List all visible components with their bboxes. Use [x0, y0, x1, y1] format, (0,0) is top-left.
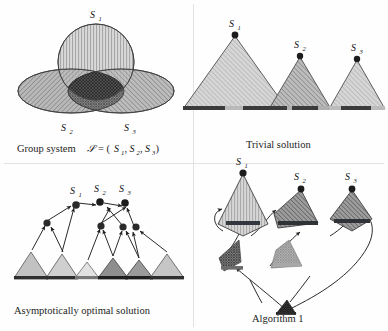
- figure-container: S 1 S 2 S 3 Group system 𝒮 = ( S 1 , S 2…: [0, 0, 388, 331]
- caption-equals: = (: [98, 143, 111, 155]
- asym-node-l3: [119, 223, 126, 230]
- label-S3-group: S 3: [124, 122, 137, 135]
- caption-S2: S: [130, 143, 135, 154]
- trivial-S2-node: [297, 53, 303, 59]
- asym-leaf-1: [14, 252, 48, 279]
- panel-group-system: S 1 S 2 S 3 Group system 𝒮 = ( S 1 , S 2…: [17, 9, 174, 156]
- asym-node-S3: [121, 199, 129, 207]
- alg-kite-S2: [274, 186, 318, 228]
- alg-S3-bar: [334, 219, 370, 223]
- label-S1-letter: S: [90, 9, 95, 20]
- label-S1-group: S 1: [90, 9, 102, 22]
- asym-label-S3: S 3: [119, 183, 132, 196]
- alg-S3-node: [349, 186, 356, 193]
- trivial-label-S2: S 2: [294, 39, 307, 52]
- label-S2-group: S 2: [61, 122, 74, 135]
- trivial-S1-node: [232, 32, 239, 39]
- asym-label-S1-sub: 1: [79, 191, 82, 198]
- asym-node-S1: [72, 201, 80, 209]
- caption-script-S: 𝒮: [87, 143, 98, 154]
- alg-label-S2-sub: 2: [303, 177, 307, 184]
- alg-S2-node: [298, 186, 305, 193]
- caption-close-paren: ): [156, 143, 160, 155]
- alg-small-kite-mid: [271, 240, 302, 268]
- alg-label-S1-sub: 1: [245, 162, 248, 169]
- asym-leaf-2: [46, 254, 78, 279]
- asym-edges: [32, 203, 167, 260]
- trivial-label-S1-letter: S: [229, 18, 234, 29]
- trivial-S3-bar: [341, 106, 371, 110]
- asym-node-l4: [132, 223, 139, 230]
- figure-svg: S 1 S 2 S 3 Group system 𝒮 = ( S 1 , S 2…: [0, 0, 388, 331]
- alg-label-S3: S 3: [345, 171, 358, 184]
- caption-group-system: Group system 𝒮 = ( S 1 , S 2 , S 3 ): [17, 143, 160, 156]
- trivial-label-S1-sub: 1: [238, 24, 241, 31]
- alg-label-S2-letter: S: [294, 171, 299, 182]
- asym-label-S3-letter: S: [119, 183, 124, 194]
- asym-label-S1-letter: S: [70, 185, 75, 196]
- label-S2-sub: 2: [70, 128, 74, 135]
- trivial-S3-node: [354, 56, 360, 62]
- alg-label-S2: S 2: [294, 171, 307, 184]
- caption-algorithm-1: Algorithm 1: [252, 313, 304, 324]
- alg-label-S1: S 1: [236, 156, 248, 169]
- asym-leaf-5: [125, 260, 153, 279]
- trivial-triangle-S3: [329, 56, 385, 110]
- label-S1-sub: 1: [99, 15, 102, 22]
- alg-S1-bar: [226, 221, 260, 225]
- trivial-S2-bar-b: [292, 106, 318, 110]
- trivial-S1-bar-a: [183, 106, 225, 110]
- label-S3-letter: S: [124, 122, 129, 133]
- caption-comma-1: ,: [125, 143, 128, 154]
- trivial-label-S3-letter: S: [351, 42, 356, 53]
- alg-label-S3-letter: S: [345, 171, 350, 182]
- caption-comma-2: ,: [140, 143, 143, 154]
- trivial-triangle-S1: [183, 32, 287, 110]
- trivial-S1-bar-b: [243, 106, 269, 110]
- trivial-triangle-S2: [269, 53, 331, 110]
- alg-kite-S1: [218, 169, 268, 236]
- caption-asymptotically-optimal: Asymptotically optimal solution: [14, 305, 151, 316]
- label-S2-letter: S: [61, 122, 66, 133]
- trivial-label-S2-sub: 2: [303, 45, 307, 52]
- asym-node-l1: [43, 219, 50, 226]
- trivial-label-S3: S 3: [351, 42, 364, 55]
- asym-label-S3-sub: 3: [127, 189, 132, 196]
- caption-S3: S: [145, 143, 150, 154]
- asym-node-l2: [97, 222, 104, 229]
- caption-trivial-solution: Trivial solution: [246, 139, 311, 150]
- trivial-label-S2-letter: S: [294, 39, 299, 50]
- caption-group-system-prefix: Group system: [17, 143, 76, 154]
- alg-small-kite-left: [219, 240, 243, 271]
- asym-label-S2-letter: S: [94, 183, 99, 194]
- trivial-label-S3-sub: 3: [359, 48, 364, 55]
- asym-leaves: [14, 252, 184, 279]
- trivial-label-S1: S 1: [229, 18, 241, 31]
- panel-asymptotically-optimal: S 1 S 2 S 3 Asymptotically optimal solut…: [14, 183, 184, 316]
- asym-label-S1: S 1: [70, 185, 82, 198]
- alg-label-S3-sub: 3: [353, 177, 358, 184]
- asym-node-S2: [96, 198, 104, 206]
- trivial-S2-bar-a: [269, 106, 287, 110]
- panel-trivial-solution: S 1 S 2 S 3 Trivial solution: [183, 18, 385, 150]
- caption-S1: S: [114, 143, 119, 154]
- asym-label-S2: S 2: [94, 183, 107, 196]
- alg-S1-node: [239, 169, 246, 176]
- panel-algorithm-1: S 1 S 2 S 3 Algorithm 1: [215, 156, 373, 324]
- alg-label-S1-letter: S: [236, 156, 241, 167]
- label-S3-sub: 3: [132, 128, 137, 135]
- asym-leaf-6: [150, 254, 184, 279]
- asym-leaf-4: [98, 258, 128, 279]
- alg-kite-S3: [330, 186, 372, 231]
- alg-S2-bar: [278, 221, 318, 225]
- asym-label-S2-sub: 2: [103, 189, 107, 196]
- asym-leaf-3: [75, 262, 99, 279]
